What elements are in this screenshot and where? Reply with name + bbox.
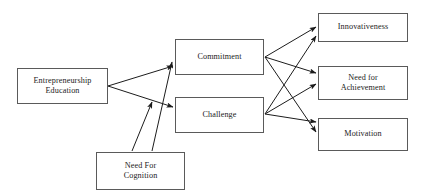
node-need-for-cognition[interactable]: Need For Cognition bbox=[96, 152, 185, 190]
edge-nfc-to-challenge bbox=[132, 102, 152, 151]
node-innovativeness[interactable]: Innovativeness bbox=[318, 13, 408, 42]
edge-commitment-to-need-for-achievement bbox=[265, 57, 316, 73]
edge-challenge-to-innovativeness bbox=[265, 36, 316, 114]
edge-nfc-to-commitment bbox=[152, 62, 172, 151]
edge-challenge-to-motivation bbox=[265, 114, 316, 122]
node-commitment[interactable]: Commitment bbox=[175, 39, 264, 75]
edge-challenge-to-need-for-achievement bbox=[265, 84, 316, 114]
node-entrepreneurship-education[interactable]: Entrepreneurship Education bbox=[17, 68, 108, 104]
edge-commitment-to-innovativeness bbox=[265, 27, 316, 57]
node-need-for-achievement[interactable]: Need for Achievement bbox=[318, 66, 408, 100]
edge-ee-to-challenge bbox=[108, 86, 173, 107]
edge-ee-to-commitment bbox=[108, 66, 173, 86]
diagram-canvas: Entrepreneurship Education Need For Cogn… bbox=[0, 0, 425, 196]
node-challenge[interactable]: Challenge bbox=[175, 97, 264, 133]
node-motivation[interactable]: Motivation bbox=[318, 118, 408, 151]
